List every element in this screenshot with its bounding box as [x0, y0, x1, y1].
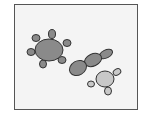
figure-illustration	[0, 0, 147, 120]
large-cell	[27, 30, 71, 69]
small-cell	[88, 67, 122, 95]
